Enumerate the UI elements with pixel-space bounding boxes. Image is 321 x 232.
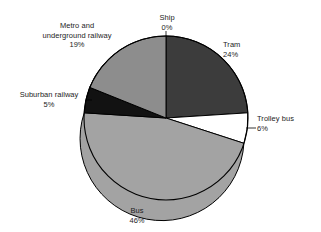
pie-label-trolley-bus: Trolley bus 6% [257, 114, 319, 133]
pie-label-ship-name: Ship [140, 13, 194, 23]
pie-label-bus: Bus 46% [110, 206, 164, 225]
pie-label-metro-underground-railway-name-line1: Metro and [24, 21, 130, 31]
pie-label-tram-name: Tram [223, 40, 283, 50]
pie-label-bus-percent: 46% [110, 216, 164, 226]
pie-label-tram: Tram 24% [223, 40, 283, 59]
pie-label-ship: Ship 0% [140, 13, 194, 32]
pie-label-suburban-railway-name: Suburban railway [6, 90, 92, 100]
pie-label-trolley-bus-name: Trolley bus [257, 114, 319, 124]
pie-label-metro-underground-railway-percent: 19% [24, 40, 130, 50]
pie-label-suburban-railway-percent: 5% [6, 100, 92, 110]
pie-label-ship-percent: 0% [140, 23, 194, 33]
pie-label-tram-percent: 24% [223, 50, 283, 60]
pie-label-metro-underground-railway-name-line2: underground railway [24, 31, 130, 41]
pie-label-metro-underground-railway: Metro and underground railway 19% [24, 21, 130, 50]
pie-label-bus-name: Bus [110, 206, 164, 216]
pie-label-trolley-bus-percent: 6% [257, 124, 319, 134]
pie-chart: Ship 0% Tram 24% Trolley bus 6% Bus 46% … [0, 0, 321, 232]
pie-label-suburban-railway: Suburban railway 5% [6, 90, 92, 109]
